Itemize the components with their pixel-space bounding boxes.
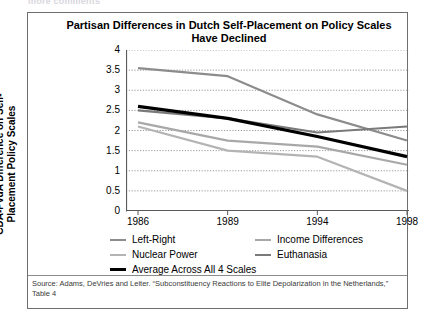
y-tick-label: 3.5 [94, 65, 120, 75]
legend-label: Nuclear Power [132, 249, 198, 260]
legend-label: Euthanasia [277, 249, 327, 260]
legend-color-swatch [255, 254, 271, 256]
x-tick-label: 1994 [292, 216, 342, 227]
legend-color-swatch [110, 254, 126, 256]
legend-color-swatch [110, 268, 126, 271]
chart-legend: Left-RightIncome DifferencesNuclear Powe… [110, 232, 400, 277]
y-tick-label: 0 [94, 206, 120, 216]
legend-item[interactable]: Income Differences [255, 234, 400, 245]
x-tick-label: 1998 [382, 216, 432, 227]
y-tick-label: 1.5 [94, 146, 120, 156]
series-line [138, 126, 407, 190]
legend-row: Nuclear PowerEuthanasia [110, 247, 400, 262]
legend-label: Income Differences [277, 234, 363, 245]
series-line [138, 110, 407, 132]
legend-row: Left-RightIncome Differences [110, 232, 400, 247]
y-axis-title: CDA-PvdA Difference on Self-Placement Po… [0, 89, 18, 239]
legend-label: Average Across All 4 Scales [132, 264, 256, 275]
plot-area [126, 50, 409, 211]
x-tick-label: 1989 [203, 216, 253, 227]
x-axis-tick-labels: 1986198919941998 [126, 216, 409, 230]
cut-off-header-strip: more comments [0, 0, 433, 11]
y-axis-title-wrapper: CDA-PvdA Difference on Self-Placement Po… [0, 31, 144, 181]
y-tick-label: 1 [94, 166, 120, 176]
y-tick-label: 0.5 [94, 186, 120, 196]
figure-container: Partisan Differences in Dutch Self-Place… [27, 12, 408, 309]
y-tick-label: 3 [94, 85, 120, 95]
source-divider [28, 275, 407, 276]
y-axis-tick-labels: 43.532.521.510.50 [90, 45, 120, 215]
y-tick-label: 2.5 [94, 105, 120, 115]
legend-item[interactable]: Nuclear Power [110, 249, 255, 260]
y-tick-label: 2 [94, 126, 120, 136]
legend-item[interactable]: Left-Right [110, 234, 255, 245]
legend-label: Left-Right [132, 234, 175, 245]
x-tick-label: 1986 [113, 216, 163, 227]
legend-color-swatch [110, 239, 126, 241]
source-note: Source: Adams, DeVries and Leiter. “Subc… [32, 279, 404, 299]
legend-color-swatch [255, 239, 271, 241]
y-tick-label: 4 [94, 45, 120, 55]
ghost-header-text: more comments [28, 0, 100, 6]
line-chart-svg [126, 50, 409, 216]
legend-item[interactable]: Euthanasia [255, 249, 400, 260]
legend-item[interactable]: Average Across All 4 Scales [110, 264, 255, 275]
